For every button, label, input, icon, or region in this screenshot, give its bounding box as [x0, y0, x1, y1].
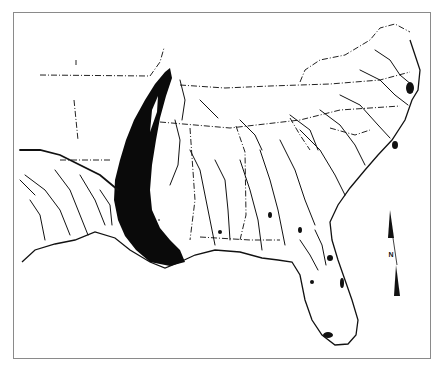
- north-arrow: N: [388, 210, 400, 296]
- north-arrow-down-icon: [394, 265, 400, 296]
- map-canvas: N: [0, 0, 440, 368]
- river-network: [20, 50, 412, 270]
- state-boundaries: [40, 24, 410, 240]
- alluvial-band: [114, 68, 185, 266]
- north-arrow-up-icon: [388, 210, 394, 238]
- coastline: [22, 40, 420, 345]
- north-label: N: [388, 251, 393, 258]
- wetland-patches: [218, 82, 414, 338]
